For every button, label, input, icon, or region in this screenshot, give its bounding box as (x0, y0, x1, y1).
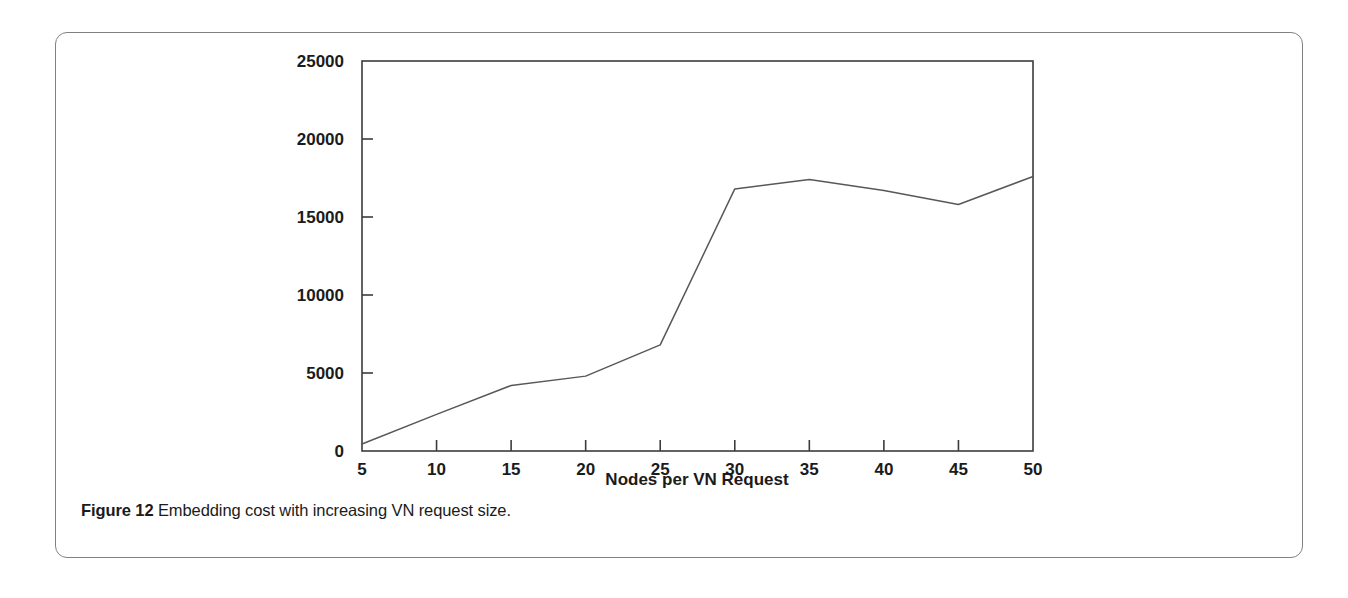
x-axis-tick-label: 50 (1024, 460, 1043, 479)
y-axis-tick-label: 0 (335, 442, 344, 461)
y-axis-tick-label: 5000 (306, 364, 344, 383)
y-axis-ticks (362, 139, 373, 373)
x-axis-tick-label: 35 (800, 460, 819, 479)
x-axis-title: Nodes per VN Request (605, 470, 789, 488)
x-axis-tick-label: 5 (357, 460, 366, 479)
x-axis-tick-label: 45 (949, 460, 968, 479)
chart-plot-area: 0500010000150002000025000 51015202530354… (56, 33, 1304, 488)
x-axis-tick-label: 10 (427, 460, 446, 479)
x-axis-tick-label: 40 (874, 460, 893, 479)
figure-caption-number: Figure 12 (81, 501, 153, 519)
figure-caption-text: Embedding cost with increasing VN reques… (158, 501, 511, 519)
figure-card: 0500010000150002000025000 51015202530354… (55, 32, 1303, 558)
y-axis-tick-label: 15000 (297, 208, 344, 227)
plot-frame-rect (362, 61, 1033, 451)
y-axis-tick-label: 10000 (297, 286, 344, 305)
x-axis-tick-label: 20 (576, 460, 595, 479)
x-axis-tick-label: 15 (502, 460, 521, 479)
x-axis-ticks (437, 440, 959, 451)
figure-caption: Figure 12 Embedding cost with increasing… (81, 501, 1261, 520)
y-axis-tick-label: 20000 (297, 130, 344, 149)
data-series-line (362, 176, 1033, 444)
y-axis-tick-label: 25000 (297, 52, 344, 71)
plot-frame (362, 61, 1033, 451)
line-chart-svg: 0500010000150002000025000 51015202530354… (56, 33, 1304, 488)
y-axis-tick-labels: 0500010000150002000025000 (297, 52, 344, 461)
